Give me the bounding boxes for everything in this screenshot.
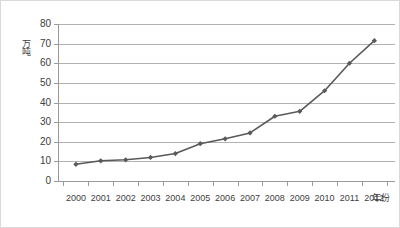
series-line — [76, 41, 374, 165]
series-markers-group — [73, 38, 377, 167]
data-point-marker — [73, 162, 78, 167]
data-point-marker — [173, 151, 178, 156]
data-point-marker — [123, 157, 128, 162]
data-point-marker — [148, 155, 153, 160]
data-series-plot — [1, 1, 400, 228]
chart-container: 万吨 01020304050607080 2000200120022003200… — [0, 0, 400, 228]
data-point-marker — [223, 136, 228, 141]
data-point-marker — [98, 158, 103, 163]
data-point-marker — [198, 141, 203, 146]
